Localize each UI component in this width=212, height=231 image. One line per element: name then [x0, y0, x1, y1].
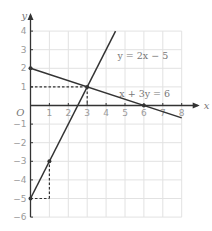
- y-tick-label: 3: [21, 45, 27, 55]
- x-tick-label: 6: [141, 108, 147, 118]
- y-tick-label: −4: [13, 175, 27, 185]
- y-axis-label: y: [21, 10, 28, 21]
- data-point: [29, 66, 33, 70]
- x-tick-label: 8: [179, 108, 185, 118]
- x-tick-label: 5: [122, 108, 128, 118]
- series-label-1: y = 2x − 5: [116, 50, 168, 61]
- data-point: [29, 197, 33, 201]
- y-tick-label: −3: [13, 156, 26, 166]
- y-tick-label: 4: [21, 26, 27, 36]
- data-point: [142, 104, 146, 108]
- y-tick-label: −5: [13, 194, 26, 204]
- y-tick-label: −6: [13, 212, 27, 222]
- y-tick-label: −2: [13, 138, 26, 148]
- x-tick-label: 4: [103, 108, 109, 118]
- origin-label: O: [16, 107, 24, 118]
- x-axis-arrow: [193, 103, 200, 109]
- x-tick-label: 1: [47, 108, 53, 118]
- y-tick-label: 2: [21, 63, 27, 73]
- x-tick-label: 2: [65, 108, 71, 118]
- y-axis-arrow: [28, 13, 34, 20]
- x-axis-label: x: [204, 100, 210, 111]
- y-tick-label: 1: [21, 82, 27, 92]
- series-label-2: x + 3y = 6: [119, 88, 170, 99]
- data-point: [85, 85, 89, 89]
- data-point: [47, 159, 51, 163]
- y-tick-label: −1: [13, 119, 26, 129]
- chart: 12345678−6−5−4−3−2−11234Oxyy = 2x − 5x +…: [0, 0, 212, 231]
- x-tick-label: 3: [84, 108, 90, 118]
